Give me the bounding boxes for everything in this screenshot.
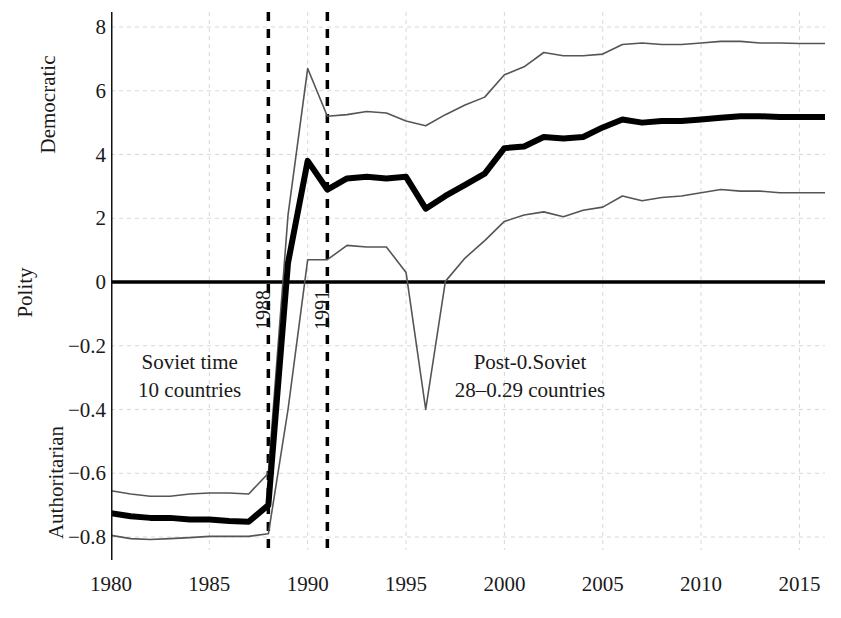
y-axis-title-polity: Polity	[0, 280, 40, 305]
y-axis-tick-label: 2	[44, 206, 106, 231]
y-axis-tick-label: 4	[44, 142, 106, 167]
annotation-post-soviet-line1: Post-0.Soviet	[455, 349, 605, 377]
annotation-post-soviet-period: Post-0.Soviet 28–0.29 countries	[455, 349, 605, 404]
y-axis-tick-label: −0.6	[44, 461, 106, 486]
plot-area	[111, 12, 825, 560]
vertical-line-label-1991: 1991	[311, 290, 334, 330]
vertical-line-label-1988: 1988	[252, 290, 275, 330]
x-axis-tick-label: 2010	[680, 572, 722, 597]
x-axis-tick-label: 2000	[483, 572, 525, 597]
annotation-post-soviet-line2: 28–0.29 countries	[455, 377, 605, 405]
y-axis-tick-label: 8	[44, 15, 106, 40]
x-axis-tick-label: 2005	[582, 572, 624, 597]
x-axis-tick-label: 1980	[90, 572, 132, 597]
reference-lines	[111, 12, 825, 552]
series-line-mean-polity-score	[111, 116, 825, 521]
x-axis-tick-label: 2015	[778, 572, 820, 597]
annotation-soviet-line2: 10 countries	[138, 377, 241, 405]
annotation-soviet-period: Soviet time 10 countries	[138, 349, 241, 404]
annotation-soviet-line1: Soviet time	[138, 349, 241, 377]
y-axis-tick-label: 0	[44, 270, 106, 295]
x-axis-tick-label: 1985	[188, 572, 230, 597]
y-axis-tick-label: −0.4	[44, 397, 106, 422]
polity-trend-chart: Democratic Polity Authoritarian 86420−0.…	[0, 0, 841, 618]
series-line-upper-confidence-bound	[111, 41, 825, 496]
x-axis-tick-label: 1995	[385, 572, 427, 597]
y-axis-tick-label: −0.2	[44, 333, 106, 358]
y-axis-tick-label: 6	[44, 78, 106, 103]
y-axis-tick-labels: 86420−0.2−0.4−0.6−0.8	[40, 0, 106, 618]
y-axis-tick-label: −0.8	[44, 525, 106, 550]
y-axis-title-polity-text: Polity	[13, 267, 38, 317]
x-axis-tick-label: 1990	[287, 572, 329, 597]
plot-svg	[111, 12, 825, 560]
y-axis-title-democratic: Democratic	[0, 92, 40, 117]
data-series	[111, 41, 825, 539]
y-axis-title-authoritarian: Authoritarian	[0, 470, 40, 495]
